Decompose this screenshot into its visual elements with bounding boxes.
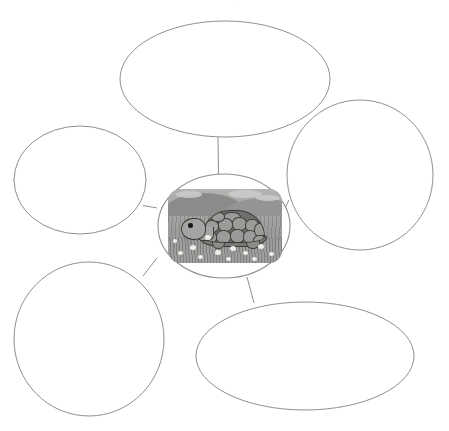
connector-lower-left xyxy=(143,258,157,276)
photo-fleck xyxy=(243,251,248,255)
connector-bottom-right xyxy=(247,277,254,303)
photo-fleck xyxy=(226,257,231,261)
photo-fleck xyxy=(269,252,274,256)
photo-fleck xyxy=(198,255,203,259)
photo-fleck xyxy=(190,245,196,250)
bubble-bottom-right[interactable] xyxy=(196,302,414,410)
photo-cloud xyxy=(256,195,280,201)
turtle-photo: Turtle on grassy ground xyxy=(168,189,282,263)
photo-fleck xyxy=(215,250,221,255)
photo-fleck xyxy=(258,244,264,249)
photo-fleck xyxy=(205,235,211,240)
turtle-eye xyxy=(188,223,193,228)
bubble-top[interactable] xyxy=(120,21,330,137)
connector-upper-left xyxy=(143,206,157,209)
photo-cloud xyxy=(176,191,202,198)
bubble-lower-left[interactable] xyxy=(14,262,164,416)
concept-map-worksheet: ... xyxy=(0,0,449,431)
bubble-upper-left[interactable] xyxy=(14,126,146,234)
connector-top xyxy=(218,137,219,174)
bubble-right[interactable] xyxy=(287,100,433,250)
photo-fleck xyxy=(252,257,257,261)
turtle-head xyxy=(181,218,206,240)
photo-fleck xyxy=(178,251,183,255)
photo-fleck xyxy=(230,246,236,251)
photo-fleck xyxy=(173,239,177,243)
